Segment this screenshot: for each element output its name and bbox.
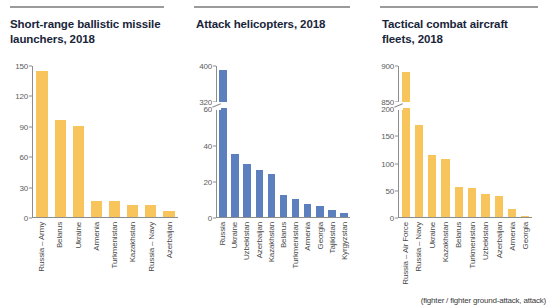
bar-slot[interactable] [51,66,69,217]
plot-area-3: 050100150200850900 [398,66,532,218]
x-label-slot: Kazakhstan [265,219,277,220]
bar-slot[interactable] [290,66,302,217]
x-axis-label: Armenia [507,222,516,251]
bar[interactable] [508,209,516,217]
bar[interactable] [316,206,323,217]
bar[interactable] [256,170,263,217]
bar[interactable] [109,201,120,217]
bar-slot[interactable] [124,66,142,217]
x-axis-label: Russia [218,222,227,246]
y-tick-mark [395,66,398,67]
bar[interactable] [495,196,503,217]
bar-slot[interactable] [519,66,532,217]
x-labels-2: RussiaUkraineUzbekistanAzerbaijanKazakhs… [216,219,350,220]
bar-slot[interactable] [314,66,326,217]
bar[interactable] [292,199,299,217]
bar-slot[interactable] [253,66,265,217]
x-label-slot: Turkmenistan [289,219,301,220]
bar-slot[interactable] [160,66,178,217]
y-tick-mark [395,190,398,191]
bar-group-1 [33,66,178,217]
bar-slot[interactable] [69,66,87,217]
bar[interactable] [441,159,449,217]
x-label-slot: Uzbekistan [478,219,491,220]
x-label-slot: Kazakhstan [123,219,141,220]
bar[interactable] [521,216,529,218]
bar-group-3 [399,66,532,217]
chart-title-3: Tactical combat aircraft fleets, 2018 [382,17,542,46]
x-label-slot: Russia – Army [32,219,50,220]
bar-slot[interactable] [465,66,478,217]
x-label-slot: Turkmenistan [105,219,123,220]
x-axis-label: Turkmenistan [467,222,476,268]
bar[interactable] [163,211,174,217]
bar-slot[interactable] [439,66,452,217]
chart-footnote: (fighter / fighter ground-attack, attack… [421,296,546,305]
bar[interactable] [55,120,66,217]
y-tick-mark [29,126,32,127]
bar[interactable] [468,188,476,217]
x-label-slot: Ukraine [69,219,87,220]
bar[interactable] [243,164,250,217]
y-tick-mark [213,145,216,146]
x-label-slot: Russia [216,219,228,220]
x-label-slot: Russia – Navy [142,219,160,220]
bar[interactable] [268,174,275,217]
x-label-slot: Ukraine [425,219,438,220]
bar-slot[interactable] [229,66,241,217]
x-axis-label: Azerbaijan [494,222,503,258]
bar[interactable] [145,205,156,217]
bar-slot[interactable] [452,66,465,217]
bar-slot[interactable] [217,66,229,217]
bar[interactable] [219,70,226,217]
x-label-slot: Armenia [301,219,313,220]
bar-slot[interactable] [326,66,338,217]
bar-slot[interactable] [265,66,277,217]
x-axis-label: Russia – Army [37,222,46,272]
bar-slot[interactable] [412,66,425,217]
chart-sheet: Short-range ballistic missile launchers,… [0,0,550,308]
x-label-slot: Belarus [452,219,465,220]
bar-slot[interactable] [241,66,253,217]
bar-slot[interactable] [277,66,289,217]
bar-slot[interactable] [399,66,412,217]
bar[interactable] [127,205,138,217]
x-label-slot: Belarus [50,219,68,220]
bar[interactable] [280,195,287,217]
chart-panel-1: Short-range ballistic missile launchers,… [0,0,186,308]
chart-title-1: Short-range ballistic missile launchers,… [10,17,170,46]
bar[interactable] [415,125,423,217]
x-label-slot: Russia – Navy [411,219,424,220]
bar[interactable] [428,155,436,217]
bar[interactable] [481,194,489,217]
bar-slot[interactable] [302,66,314,217]
bar[interactable] [340,213,347,217]
bar-slot[interactable] [142,66,160,217]
bar-slot[interactable] [505,66,518,217]
bar[interactable] [402,72,410,217]
x-axis-label: Belarus [55,222,64,248]
bar[interactable] [73,126,84,217]
bar[interactable] [91,201,102,217]
bar[interactable] [231,154,238,217]
x-axis-label: Azerbaijan [254,222,263,258]
x-label-slot: Georgia [314,219,326,220]
x-axis-3 [398,217,532,218]
x-axis-label: Belarus [454,222,463,248]
bar-slot[interactable] [106,66,124,217]
x-label-slot: Turkmenistan [465,219,478,220]
x-label-slot: Kazakhstan [438,219,451,220]
x-axis-label: Kyrgyzstan [339,222,348,260]
bar[interactable] [36,71,47,217]
bar-slot[interactable] [492,66,505,217]
bar-slot[interactable] [87,66,105,217]
bar[interactable] [304,204,311,217]
bar[interactable] [455,187,463,217]
bar-slot[interactable] [426,66,439,217]
bar-slot[interactable] [479,66,492,217]
chart-panel-3: Tactical combat aircraft fleets, 2018 05… [372,0,550,308]
x-axis-label: Armenia [91,222,100,251]
bar-slot[interactable] [33,66,51,217]
bar-slot[interactable] [338,66,350,217]
bar[interactable] [328,210,335,217]
